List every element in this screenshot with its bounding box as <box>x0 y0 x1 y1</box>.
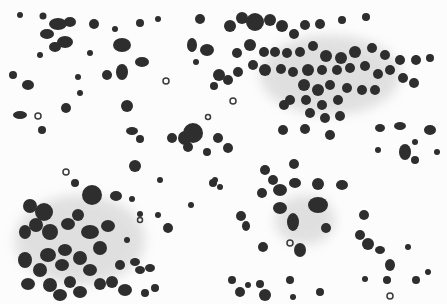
micrograph <box>0 0 447 304</box>
cell-field <box>0 0 447 304</box>
cytoplasm-haze <box>15 35 400 285</box>
